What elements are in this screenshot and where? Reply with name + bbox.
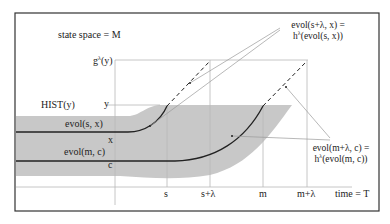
tick-label-m-lambda: m+λ bbox=[297, 188, 315, 199]
annotation-top-right-line2: hλ(evol(s, x)) bbox=[293, 30, 343, 42]
state-space-label: state space = M bbox=[58, 29, 121, 40]
annotation-bottom-right-line2: hλ(evol(m, c)) bbox=[314, 153, 367, 165]
x-level-label: x bbox=[108, 134, 113, 145]
evol-s-x-label: evol(s, x) bbox=[65, 118, 103, 130]
tick-label-s-lambda: s+λ bbox=[201, 188, 216, 199]
y-level-label: y bbox=[104, 98, 109, 109]
evolution-diagram: state space = M gλ(y) HIST(y) y evol(s, … bbox=[0, 0, 390, 224]
evol-m-c-label: evol(m, c) bbox=[64, 146, 105, 158]
tick-label-m: m bbox=[259, 188, 267, 199]
tick-label-s: s bbox=[164, 188, 168, 199]
c-level-label: c bbox=[108, 159, 113, 170]
g-lambda-y-label: gλ(y) bbox=[93, 55, 113, 67]
time-axis-label: time = T bbox=[335, 188, 369, 199]
hist-label: HIST(y) bbox=[41, 99, 75, 111]
